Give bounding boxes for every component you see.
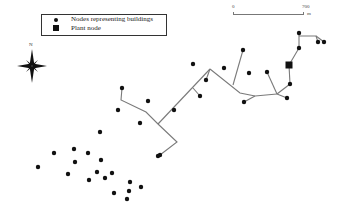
building-node bbox=[285, 96, 289, 100]
building-node bbox=[172, 108, 176, 112]
legend-label: Nodes representing buildings bbox=[71, 15, 153, 24]
building-node bbox=[86, 151, 90, 155]
building-node bbox=[265, 70, 269, 74]
building-node bbox=[146, 99, 150, 103]
building-node-icon bbox=[54, 18, 58, 22]
building-node bbox=[52, 151, 56, 155]
building-node bbox=[247, 71, 251, 75]
building-node bbox=[198, 94, 202, 98]
building-node bbox=[204, 78, 208, 82]
building-node bbox=[222, 66, 226, 70]
scale-line bbox=[233, 14, 303, 15]
building-node bbox=[120, 86, 124, 90]
building-node bbox=[98, 130, 102, 134]
building-node bbox=[116, 108, 120, 112]
plant-node-square bbox=[286, 62, 293, 69]
district-heating-network-map: N Nodes representing buildings Plant nod… bbox=[0, 0, 342, 210]
building-node bbox=[110, 171, 114, 175]
building-node bbox=[112, 191, 116, 195]
building-node bbox=[73, 160, 77, 164]
building-node bbox=[127, 189, 131, 193]
building-node bbox=[125, 197, 129, 201]
building-node bbox=[87, 178, 91, 182]
building-node bbox=[66, 172, 70, 176]
pipe-segment bbox=[121, 88, 177, 155]
building-node bbox=[316, 40, 320, 44]
building-node bbox=[156, 154, 160, 158]
scale-start: 0 bbox=[232, 4, 235, 9]
building-node bbox=[72, 147, 76, 151]
building-node bbox=[297, 31, 301, 35]
building-node bbox=[322, 40, 326, 44]
building-node bbox=[36, 165, 40, 169]
pipe-segment bbox=[299, 36, 318, 42]
building-node bbox=[138, 121, 142, 125]
scale-bar: 0 700 m bbox=[232, 4, 312, 18]
pipe-network bbox=[121, 33, 324, 155]
pipe-segment bbox=[233, 50, 243, 85]
building-node bbox=[241, 48, 245, 52]
building-node bbox=[103, 176, 107, 180]
building-node bbox=[288, 82, 292, 86]
building-node bbox=[191, 62, 195, 66]
pipe-segment bbox=[277, 84, 290, 94]
scale-end: 700 bbox=[302, 4, 310, 9]
compass-rose-icon bbox=[17, 49, 47, 83]
map-legend: Nodes representing buildings Plant node bbox=[41, 14, 167, 36]
building-node bbox=[95, 170, 99, 174]
building-node bbox=[242, 100, 246, 104]
pipe-segment bbox=[267, 72, 277, 94]
plant-node bbox=[286, 62, 293, 69]
plant-node-icon bbox=[53, 25, 59, 31]
legend-label: Plant node bbox=[71, 24, 101, 33]
building-node bbox=[99, 158, 103, 162]
building-node bbox=[139, 185, 143, 189]
pipe-segment bbox=[158, 69, 210, 124]
building-node bbox=[297, 46, 301, 50]
north-label: N bbox=[29, 42, 33, 47]
scale-unit: m bbox=[307, 11, 311, 16]
scale-tick bbox=[303, 12, 304, 15]
scale-tick bbox=[233, 12, 234, 15]
building-node bbox=[128, 180, 132, 184]
building-nodes bbox=[36, 31, 326, 201]
